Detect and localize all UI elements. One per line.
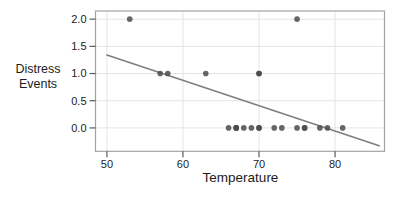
chart-container: 0.00.51.01.52.050607080 Distress Events …	[0, 0, 394, 200]
data-point	[249, 125, 255, 131]
y-tick-label: 0.5	[71, 95, 86, 107]
data-point	[157, 71, 163, 77]
data-point	[233, 125, 239, 131]
x-tick-label: 80	[329, 158, 341, 170]
x-tick-label: 60	[177, 158, 189, 170]
y-tick-label: 1.5	[71, 40, 86, 52]
data-point	[340, 125, 346, 131]
data-point	[241, 125, 247, 131]
y-axis-title-line1: Distress	[15, 62, 60, 76]
data-point	[127, 16, 133, 22]
data-point	[226, 125, 232, 131]
data-point	[325, 125, 331, 131]
x-axis-title: Temperature	[96, 170, 385, 185]
data-point	[294, 16, 300, 22]
data-point	[279, 125, 285, 131]
data-point	[271, 125, 277, 131]
data-point	[256, 71, 262, 77]
data-point	[165, 71, 171, 77]
data-point	[294, 125, 300, 131]
data-point	[302, 125, 308, 131]
y-axis-title-line2: Events	[19, 77, 57, 91]
data-point	[203, 71, 209, 77]
data-point	[317, 125, 323, 131]
y-axis-title: Distress Events	[2, 62, 74, 92]
x-tick-label: 70	[253, 158, 265, 170]
y-tick-label: 0.0	[71, 122, 86, 134]
x-tick-label: 50	[101, 158, 113, 170]
data-point	[256, 125, 262, 131]
y-tick-label: 2.0	[71, 13, 86, 25]
